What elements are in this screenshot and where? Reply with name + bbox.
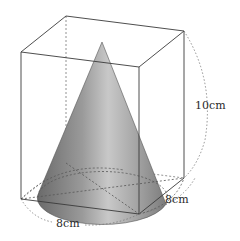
base-width-label: 8cm	[56, 217, 80, 230]
base-depth-label: 8cm	[165, 193, 189, 206]
edge-top-back	[66, 16, 184, 31]
edge-top-front	[21, 52, 139, 67]
cone-in-box-figure: 10cm 8cm 8cm	[0, 0, 240, 241]
height-label: 10cm	[195, 99, 226, 112]
edge-top-right	[139, 31, 184, 67]
cone-surface	[37, 42, 166, 224]
edge-top-left	[21, 16, 66, 52]
